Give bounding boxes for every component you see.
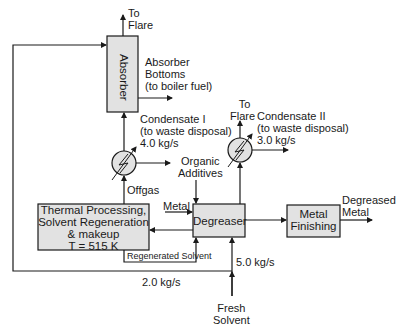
to-flare-1-label: To Flare	[128, 7, 153, 31]
condensate-1-label: Condensate I (to waste disposal) 4.0 kg/…	[140, 113, 232, 149]
absorber-bottoms-label: Absorber Bottoms (to boiler fuel)	[145, 56, 212, 92]
to-flare-2-label: To Flare	[230, 98, 255, 122]
organic-additives-label: Organic Additives	[178, 155, 223, 179]
offgas-label: Offgas	[127, 184, 159, 196]
metal-finishing-label: Metal Finishing	[287, 208, 340, 232]
fresh-solvent-label: Fresh Solvent	[213, 302, 250, 326]
degreaser-label: Degreaser	[193, 215, 245, 227]
metal-input-label: Metal	[163, 200, 190, 212]
absorber-label: Absorber	[118, 54, 130, 94]
fresh-flow-label: 5.0 kg/s	[236, 256, 275, 268]
condensate-2-label: Condensate II (to waste disposal) 3.0 kg…	[257, 110, 349, 146]
recycle-flow-label: 2.0 kg/s	[142, 276, 181, 288]
degreased-metal-label: Degreased Metal	[342, 194, 396, 218]
thermal-processing-label: Thermal Processing, Solvent Regeneration…	[38, 204, 149, 252]
regenerated-solvent-label: Regenerated Solvent	[127, 251, 212, 261]
